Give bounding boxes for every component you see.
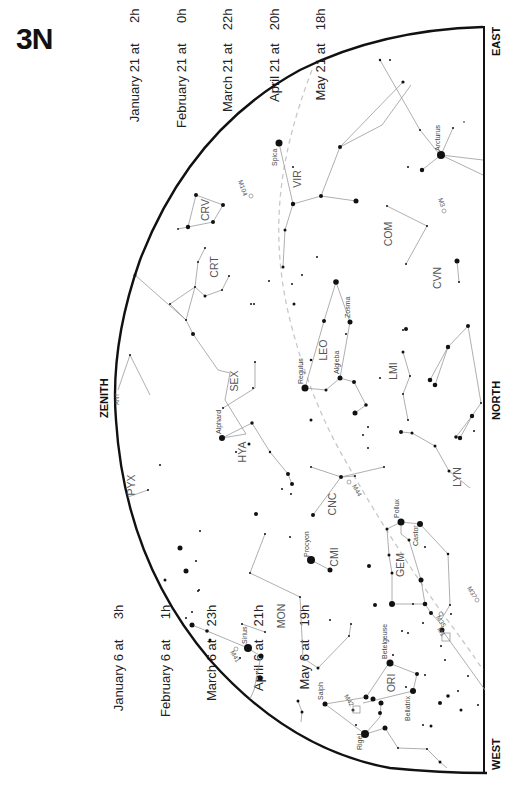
label-leo: LEO: [317, 339, 329, 360]
deep-sky-labels: M104 M3 M44 M35 M37 M1 M42 M41: [229, 179, 479, 708]
star-rigel: Rigel: [356, 734, 364, 750]
star-names: Spica Arcturus Regulus Zosma Algieba Alp…: [215, 124, 441, 750]
label-ori: ORI: [385, 674, 397, 693]
label-lyn: LYN: [451, 467, 463, 487]
star-arcturus: Arcturus: [434, 124, 441, 151]
star-regulus: Regulus: [297, 358, 305, 384]
direction-east: EAST: [490, 26, 502, 56]
label-cmi: CMI: [328, 547, 340, 566]
horizon-arc: [115, 27, 487, 773]
label-crv: CRV: [199, 199, 211, 221]
star-procyon: Procyon: [303, 531, 311, 557]
dso-m37: M37: [466, 585, 479, 600]
star-bellatrix: Bellatrix: [404, 696, 411, 721]
label-hya: HYA: [236, 442, 248, 463]
dso-m44: M44: [351, 483, 364, 498]
star-castor: Castor: [412, 525, 419, 546]
label-gem: GEM: [394, 553, 406, 577]
label-pyx: PYX: [125, 474, 137, 495]
label-ant: ANT: [114, 393, 120, 405]
label-sex: SEX: [228, 370, 240, 391]
star-spica: Spica: [271, 148, 279, 166]
star-betelgeuse: Betelgeuse: [381, 624, 389, 659]
label-lmi: LMI: [387, 362, 399, 380]
star-alphard: Alphard: [215, 410, 223, 434]
direction-west: WEST: [490, 738, 502, 770]
direction-north: NORTH: [490, 381, 502, 420]
direction-zenith: ZENITH: [98, 378, 110, 418]
dso-m104: M104: [237, 179, 249, 197]
dso-m3: M3: [437, 197, 447, 208]
constellation-labels: VIR COM CVN CRV CRT LEO LMI SEX HYA ANT …: [114, 170, 463, 692]
label-crt: CRT: [208, 256, 220, 278]
star-saiph: Saiph: [317, 682, 325, 700]
label-com: COM: [382, 222, 394, 247]
star-algieba: Algieba: [333, 351, 341, 374]
star-pollux: Pollux: [393, 498, 400, 518]
label-mon: MON: [275, 604, 287, 629]
label-vir: VIR: [291, 170, 303, 188]
dso-m41: M41: [229, 649, 242, 664]
star-chart: EAST NORTH WEST ZENITH: [0, 0, 531, 794]
constellation-lines: [118, 60, 485, 768]
star-sirius: Sirius: [241, 626, 248, 644]
label-cvn: CVN: [431, 267, 443, 289]
star-zosma: Zosma: [344, 297, 351, 319]
dso-m1: M1: [436, 626, 447, 638]
label-cnc: CNC: [326, 492, 338, 515]
